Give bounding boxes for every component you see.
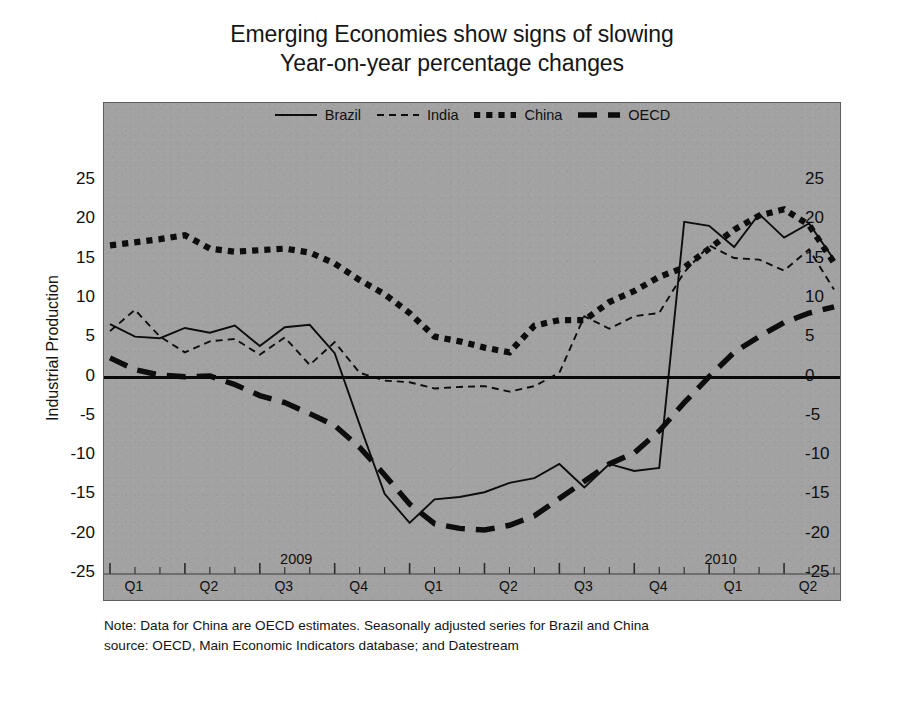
- legend-label: India: [427, 107, 458, 123]
- x-tick-label-quarter: Q2: [200, 578, 219, 594]
- y-tick-label-left: 0: [86, 366, 95, 386]
- x-tick-label-quarter: Q3: [274, 578, 293, 594]
- y-tick-label-left: -20: [70, 523, 95, 543]
- legend-item-oecd: OECD: [577, 107, 670, 123]
- y-tick-label-right: 0: [805, 366, 814, 386]
- y-tick-label-right: 10: [805, 287, 824, 307]
- y-tick-label-left: -25: [70, 562, 95, 582]
- title-line-2: Year-on-year percentage changes: [0, 49, 904, 78]
- y-tick-label-right: 15: [805, 248, 824, 268]
- x-tick-label-quarter: Q1: [724, 578, 743, 594]
- y-tick-label-left: 15: [76, 248, 95, 268]
- y-tick-label-right: -5: [805, 405, 820, 425]
- y-tick-label-left: 20: [76, 208, 95, 228]
- y-tick-label-right: -10: [805, 444, 830, 464]
- x-axis-year-label: 2010: [705, 551, 737, 567]
- legend-label: Brazil: [325, 107, 361, 123]
- y-tick-label-right: -15: [805, 483, 830, 503]
- footnote-source-line: source: OECD, Main Economic Indicators d…: [104, 636, 844, 656]
- x-tick-label-quarter: Q3: [574, 578, 593, 594]
- x-tick-label-quarter: Q1: [125, 578, 144, 594]
- chart-figure: Emerging Economies show signs of slowing…: [0, 0, 904, 709]
- legend-swatch-icon: [473, 109, 517, 121]
- y-tick-label-right: -20: [805, 523, 830, 543]
- y-tick-label-left: 25: [76, 169, 95, 189]
- y-tick-label-right: 25: [805, 169, 824, 189]
- x-axis-year-label: 2009: [280, 551, 312, 567]
- legend-item-india: India: [376, 107, 458, 123]
- series-line-india: [110, 245, 834, 391]
- chart-canvas: [104, 103, 840, 600]
- legend-label: China: [524, 107, 562, 123]
- series-line-brazil: [110, 214, 834, 523]
- y-tick-label-left: 10: [76, 287, 95, 307]
- legend-item-brazil: Brazil: [274, 107, 361, 123]
- y-tick-label-left: -10: [70, 444, 95, 464]
- plot-area: BrazilIndiaChinaOECD: [103, 102, 841, 601]
- x-tick-label-quarter: Q2: [499, 578, 518, 594]
- legend-item-china: China: [473, 107, 562, 123]
- title-line-1: Emerging Economies show signs of slowing: [0, 20, 904, 49]
- y-tick-label-right: 5: [805, 326, 814, 346]
- chart-footnote: Note: Data for China are OECD estimates.…: [104, 616, 844, 655]
- series-layer: [110, 209, 834, 530]
- footnote-note-line: Note: Data for China are OECD estimates.…: [104, 616, 844, 636]
- legend-swatch-icon: [577, 109, 621, 121]
- x-tick-label-quarter: Q1: [424, 578, 443, 594]
- x-tick-label-quarter: Q4: [349, 578, 368, 594]
- chart-title: Emerging Economies show signs of slowing…: [0, 20, 904, 79]
- y-axis-title: Industrial Production: [44, 238, 62, 458]
- y-tick-label-left: -15: [70, 483, 95, 503]
- legend-swatch-icon: [376, 109, 420, 121]
- legend-swatch-icon: [274, 109, 318, 121]
- x-tick-label-quarter: Q2: [799, 578, 818, 594]
- y-tick-label-left: 5: [86, 326, 95, 346]
- legend-label: OECD: [628, 107, 670, 123]
- chart-legend: BrazilIndiaChinaOECD: [104, 107, 840, 123]
- x-tick-label-quarter: Q4: [649, 578, 668, 594]
- y-tick-label-left: -5: [80, 405, 95, 425]
- y-tick-label-right: 20: [805, 208, 824, 228]
